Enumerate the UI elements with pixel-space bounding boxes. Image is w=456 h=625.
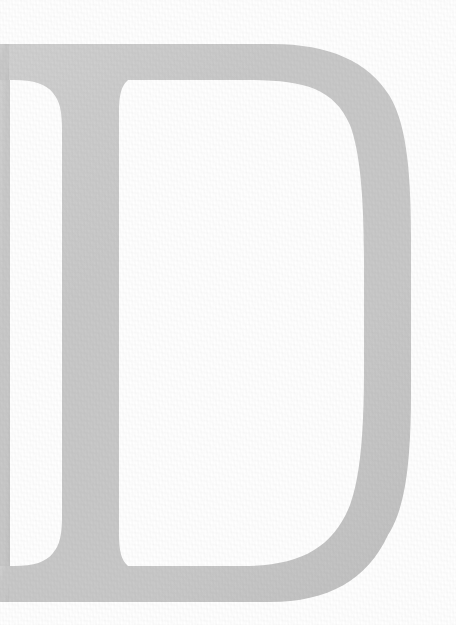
bottom-serif-crop-fill xyxy=(0,566,9,602)
top-serif-crop-fill xyxy=(0,44,9,80)
image-canvas xyxy=(0,0,456,625)
letter-d-glyph xyxy=(0,0,456,625)
stem-crop-fill xyxy=(0,80,10,566)
